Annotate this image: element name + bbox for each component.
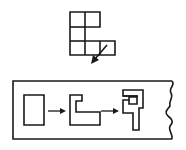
rectangle-shape	[24, 95, 44, 125]
strip-frame	[13, 81, 173, 139]
polyomino-grid	[70, 12, 115, 55]
polyomino-outline	[70, 12, 115, 55]
right-arrow-icon	[48, 108, 66, 114]
c-shape	[70, 95, 100, 125]
diagram-canvas	[0, 0, 186, 150]
right-arrow-icon	[101, 108, 119, 114]
